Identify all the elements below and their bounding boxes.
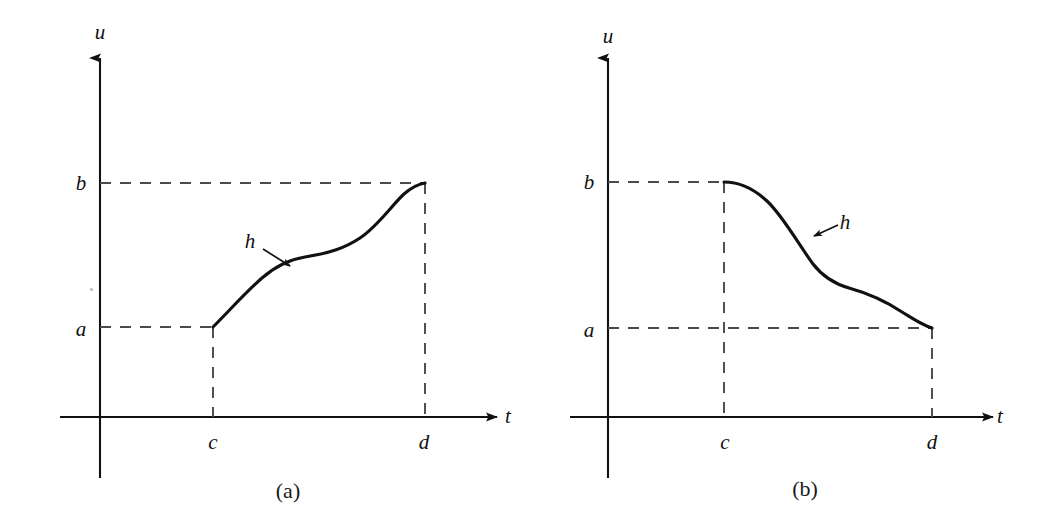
y-axis-label: u — [95, 22, 106, 43]
curve-h — [724, 182, 932, 328]
x-axis-label: t — [997, 406, 1003, 427]
curve-label-h: h — [245, 231, 256, 252]
x-tick-label-d: d — [927, 432, 938, 453]
curve-label-leader-line — [814, 225, 838, 236]
y-tick-label-a: a — [76, 319, 87, 340]
curve-h — [213, 183, 425, 327]
y-tick-label-b: b — [584, 172, 595, 193]
panel-b: u t b a c d h (b) — [527, 0, 1053, 525]
panel-a: u t b a c d h (a) — [0, 0, 527, 525]
panel-caption: (b) — [792, 478, 818, 500]
curve-label-h: h — [840, 212, 851, 233]
y-tick-label-a: a — [584, 320, 595, 341]
x-tick-label-c: c — [720, 432, 729, 453]
x-tick-label-d: d — [419, 432, 430, 453]
figure-root: u t b a c d h (a) — [0, 0, 1053, 525]
curve-label-leader-line — [263, 249, 290, 266]
panel-b-drawing — [527, 0, 1053, 525]
print-speck — [90, 288, 93, 291]
x-axis-label: t — [505, 406, 511, 427]
x-tick-label-c: c — [208, 432, 217, 453]
y-axis-label: u — [603, 26, 614, 47]
panel-a-drawing — [0, 0, 527, 525]
y-tick-label-b: b — [76, 173, 87, 194]
panel-caption: (a) — [276, 480, 300, 502]
